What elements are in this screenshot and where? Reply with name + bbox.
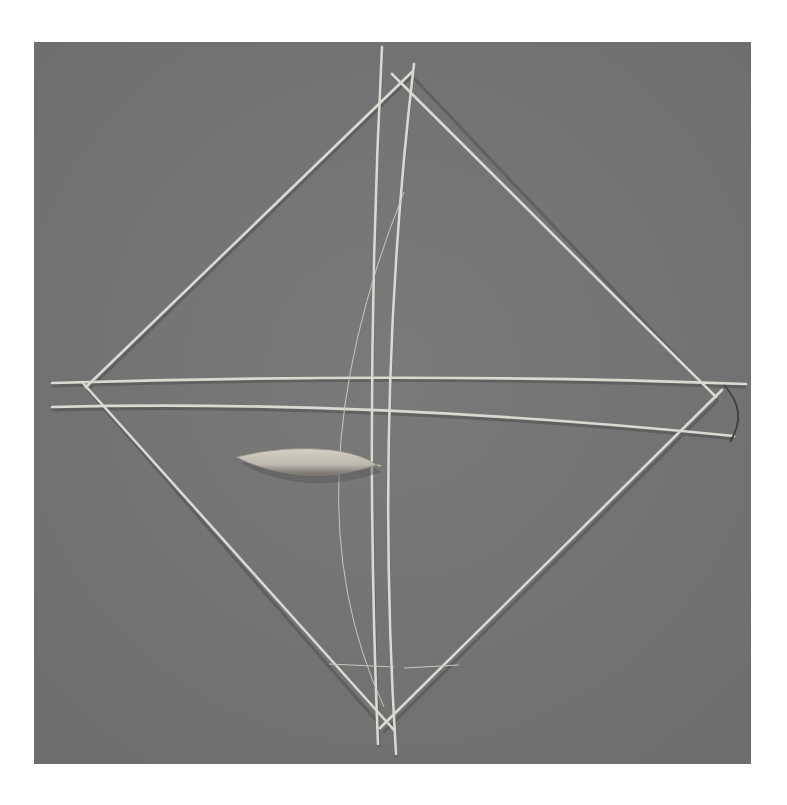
- artwork-photo: Diamond-shaped frame of thin sticks cros…: [34, 42, 751, 764]
- grey-backdrop: [34, 42, 751, 764]
- kite-frame-sculpture: [34, 42, 751, 764]
